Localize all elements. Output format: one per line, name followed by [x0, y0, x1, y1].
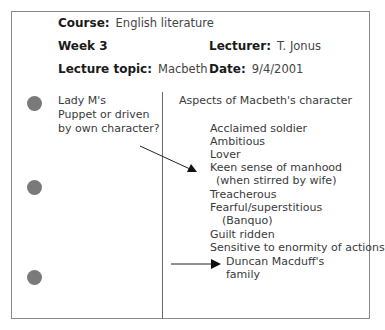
arrow-icon [171, 259, 221, 269]
arrow-icon [140, 146, 197, 172]
